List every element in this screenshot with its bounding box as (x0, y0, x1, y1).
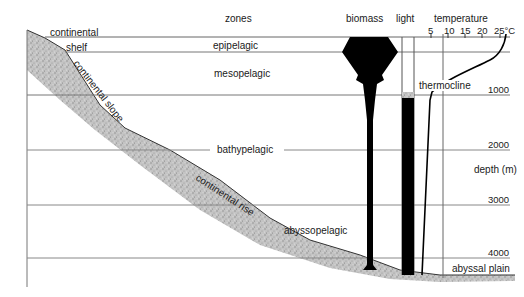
temp-tick-25: 25°C (494, 25, 515, 36)
light-darkness-fill (402, 97, 414, 275)
zone-bathypelagic: bathypelagic (214, 144, 276, 155)
zone-abyssopelagic: abyssopelagic (284, 225, 347, 236)
temp-tick-5: 5 (428, 25, 433, 36)
depth-axis-label: depth (m) (474, 164, 517, 175)
biomass-profile (342, 37, 398, 270)
temperature-curve (422, 34, 506, 275)
zones-header: zones (225, 13, 252, 24)
temp-tick-15: 15 (460, 25, 471, 36)
thermocline-label: thermocline (418, 80, 472, 91)
zone-epipelagic: epipelagic (213, 40, 258, 51)
depth-tick-4000: 4000 (488, 247, 509, 258)
light-transition-speckle (402, 92, 414, 98)
seafloor-sediment (27, 30, 515, 282)
depth-tick-3000: 3000 (488, 194, 509, 205)
depth-tick-2000: 2000 (488, 139, 509, 150)
zone-mesopelagic: mesopelagic (214, 68, 270, 79)
temp-tick-10: 10 (444, 25, 455, 36)
abyssal-plain-label: abyssal plain (452, 263, 510, 274)
temperature-header: temperature (434, 13, 488, 24)
biomass-header: biomass (346, 13, 383, 24)
temp-tick-20: 20 (477, 25, 488, 36)
light-header: light (396, 13, 414, 24)
continental-shelf-label-top: continental (50, 27, 98, 38)
continental-shelf-label-bottom: shelf (66, 42, 87, 53)
depth-tick-1000: 1000 (488, 84, 509, 95)
